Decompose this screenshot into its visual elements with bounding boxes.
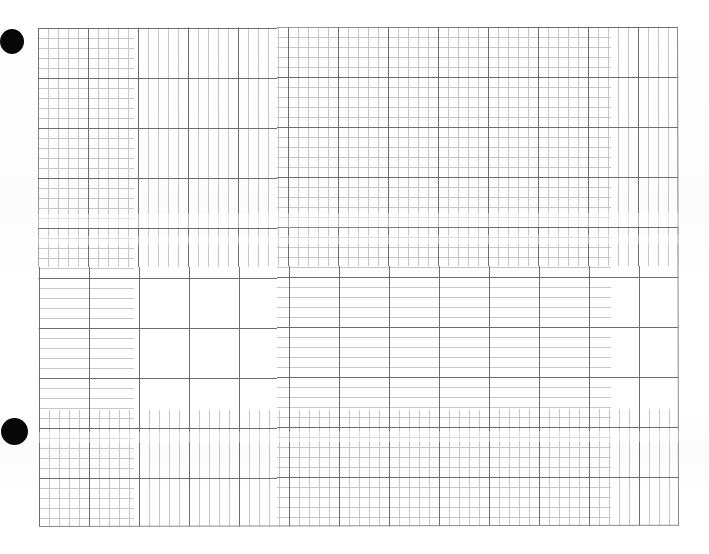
- grid-right-edge-rule: [677, 27, 679, 526]
- grid-major-lines: [38, 27, 679, 527]
- graph-paper-grid: [38, 27, 679, 527]
- punch-hole-bottom: [1, 418, 28, 445]
- punch-hole-top: [0, 29, 24, 54]
- graph-paper-page: [0, 0, 709, 554]
- grid-bottom-edge-rule: [39, 525, 679, 527]
